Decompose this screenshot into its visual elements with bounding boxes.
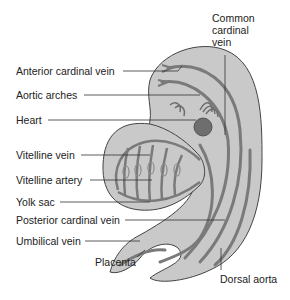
- label-line: cardinal: [212, 24, 255, 36]
- label-umbilical-vein: Umbilical vein: [16, 235, 81, 247]
- label-aortic-arches: Aortic arches: [16, 89, 77, 101]
- label-line: vein: [212, 36, 255, 48]
- label-common-cardinal-vein: Common cardinal vein: [212, 12, 255, 48]
- label-vitelline-artery: Vitelline artery: [16, 174, 82, 186]
- heart-shape: [194, 118, 212, 136]
- label-yolk-sac: Yolk sac: [16, 196, 55, 208]
- label-anterior-cardinal-vein: Anterior cardinal vein: [16, 65, 115, 77]
- label-vitelline-vein: Vitelline vein: [16, 149, 75, 161]
- label-heart: Heart: [16, 114, 42, 126]
- label-posterior-cardinal-vein: Posterior cardinal vein: [16, 214, 120, 226]
- label-dorsal-aorta: Dorsal aorta: [220, 273, 277, 285]
- label-line: Common: [212, 12, 255, 24]
- label-placenta: Placenta: [95, 256, 136, 268]
